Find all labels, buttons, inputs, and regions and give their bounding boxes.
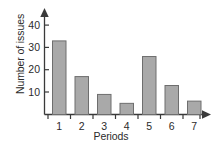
bar-4 xyxy=(120,103,134,114)
bar-6 xyxy=(165,86,179,115)
bar-3 xyxy=(98,94,112,114)
plot-area: 10 20 30 40 1 2 3 4 5 6 7 xyxy=(0,0,222,146)
bar-2 xyxy=(75,77,89,115)
y-tick-label-10: 10 xyxy=(28,86,40,98)
y-tick-label-40: 40 xyxy=(28,19,40,31)
y-tick-label-30: 30 xyxy=(28,41,40,53)
bar-5 xyxy=(143,57,157,115)
x-axis-title: Periods xyxy=(0,130,222,142)
x-axis-arrow-icon xyxy=(202,110,211,118)
bar-7 xyxy=(188,101,202,114)
y-tick-label-20: 20 xyxy=(28,63,40,75)
bar-chart: Number of issues 10 20 30 40 xyxy=(0,0,222,146)
bar-1 xyxy=(53,41,67,115)
y-axis-arrow-icon xyxy=(40,8,48,17)
